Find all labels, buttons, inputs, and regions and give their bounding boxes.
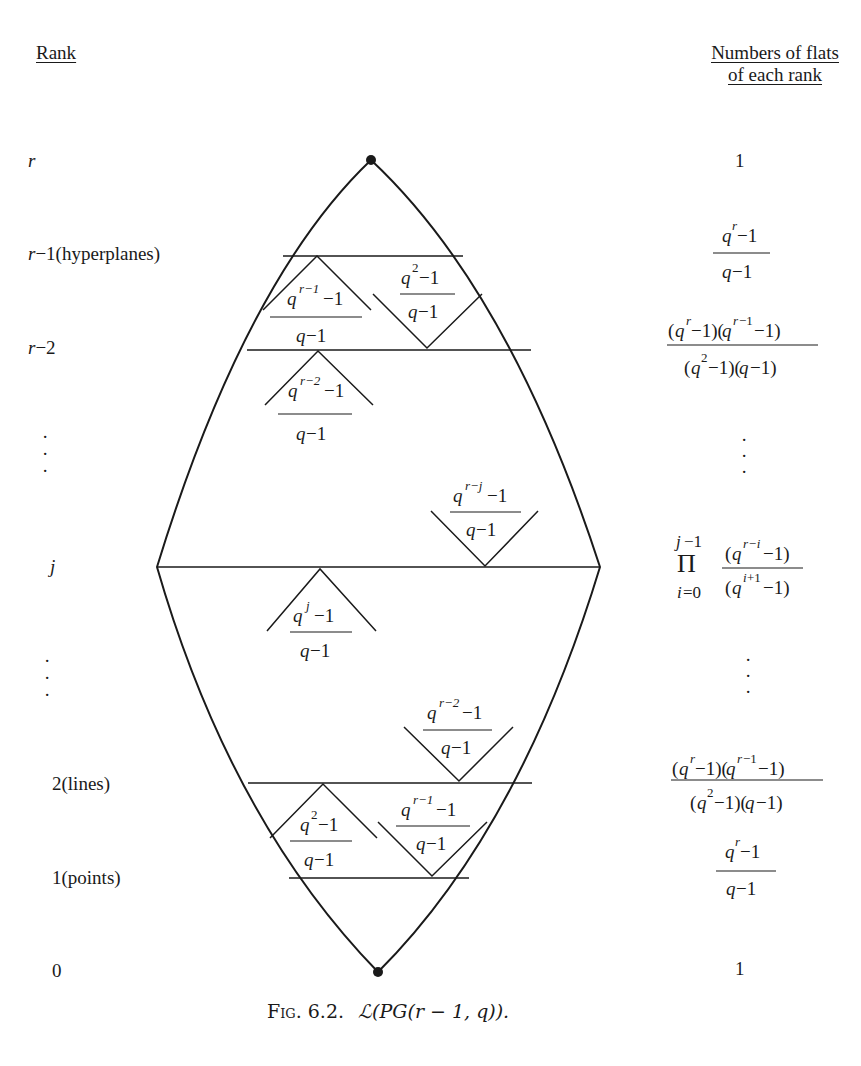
svg-text:Π: Π — [677, 549, 696, 578]
svg-text:−1: −1 — [310, 640, 330, 661]
svg-text:q: q — [466, 519, 476, 540]
count-rank-r: 1 — [735, 150, 745, 171]
svg-text:·: · — [745, 681, 751, 702]
svg-text:(: ( — [690, 792, 696, 814]
svg-text:q: q — [726, 878, 736, 899]
svg-text:−1): −1) — [763, 577, 790, 599]
caption-fig-label: Fig. 6.2. — [267, 1000, 344, 1022]
count-rank-zero: 1 — [735, 958, 745, 979]
svg-text:q: q — [697, 792, 707, 813]
svg-text:−1: −1 — [732, 261, 752, 282]
svg-text:−1)(: −1)( — [708, 357, 741, 379]
svg-text:(: ( — [725, 577, 731, 599]
svg-text:−1: −1 — [476, 519, 496, 540]
svg-text:(: ( — [672, 758, 678, 780]
count-rank-r-minus-2: (qr−1)(qr−1−1) (q2−1)(q−1) — [667, 313, 818, 379]
svg-text:q: q — [726, 758, 736, 779]
svg-text:−1): −1) — [754, 320, 781, 342]
svg-text:q: q — [722, 225, 732, 246]
svg-text:q: q — [691, 357, 701, 378]
svg-text:−1: −1 — [426, 833, 446, 854]
svg-text:−1): −1) — [756, 792, 783, 814]
svg-text:−1): −1) — [758, 758, 785, 780]
svg-text:q: q — [745, 792, 755, 813]
svg-text:−1: −1 — [318, 814, 338, 835]
svg-text:q: q — [427, 702, 437, 723]
svg-text:r−1: r−1 — [413, 792, 433, 807]
count-hyperplanes: qr−1 q−1 — [713, 218, 770, 282]
svg-text:−1: −1 — [462, 702, 482, 723]
svg-text:q: q — [300, 640, 310, 661]
svg-text:r−i: r−i — [743, 536, 761, 551]
svg-text:−1: −1 — [737, 225, 757, 246]
svg-text:q: q — [725, 841, 735, 862]
exp-up-r-1: r−1 — [299, 281, 319, 296]
svg-text:q: q — [732, 543, 742, 564]
svg-text:−1: −1 — [736, 878, 756, 899]
svg-text:q: q — [679, 758, 689, 779]
svg-text:(: ( — [668, 320, 674, 342]
svg-text:q: q — [722, 320, 732, 341]
svg-text:q: q — [739, 357, 749, 378]
svg-text:−1: −1 — [436, 799, 456, 820]
bottom-element-dot — [373, 967, 383, 977]
svg-text:−1: −1 — [419, 267, 439, 288]
count-lines: (qr−1)(qr−1−1) (q2−1)(q−1) — [671, 751, 823, 814]
svg-text:−1: −1 — [451, 737, 471, 758]
svg-text:−1: −1 — [739, 313, 753, 328]
svg-text:−1: −1 — [314, 849, 334, 870]
svg-text:−1): −1) — [750, 357, 777, 379]
svg-text:q: q — [304, 849, 314, 870]
lens-left-curve — [157, 160, 378, 972]
svg-text:−1: −1 — [743, 751, 757, 766]
svg-text:r−j: r−j — [465, 478, 483, 493]
svg-text:=0: =0 — [683, 583, 701, 602]
svg-text:(: ( — [725, 543, 731, 565]
svg-text:q: q — [675, 320, 685, 341]
svg-text:j: j — [304, 598, 310, 613]
svg-text:−1: −1 — [306, 325, 326, 346]
svg-text:q: q — [722, 261, 732, 282]
svg-text:−1: −1 — [487, 485, 507, 506]
svg-text:r−2: r−2 — [300, 373, 321, 388]
svg-text:q: q — [293, 605, 303, 626]
svg-text:q: q — [296, 423, 306, 444]
svg-text:−1: −1 — [323, 288, 343, 309]
svg-text:q: q — [401, 267, 411, 288]
svg-text:−1: −1 — [324, 380, 344, 401]
svg-text:−1)(: −1)( — [695, 758, 728, 780]
svg-text:q: q — [416, 833, 426, 854]
svg-text:−1): −1) — [763, 543, 790, 565]
svg-text:q: q — [453, 485, 463, 506]
svg-text:(: ( — [684, 357, 690, 379]
count-points: qr−1 q−1 — [716, 834, 776, 899]
lattice-diagram: qr−1−1 q−1 q2−1 q−1 qr−2−1 q−1 qr−j−1 q−… — [0, 0, 861, 1066]
svg-text:q: q — [296, 325, 306, 346]
svg-text:−1: −1 — [314, 605, 334, 626]
count-rank-j: j−1 Π i=0 (qr−i−1) (qi+1−1) — [674, 532, 803, 602]
svg-text:2: 2 — [412, 260, 419, 275]
svg-text:2: 2 — [707, 785, 714, 800]
svg-text:q: q — [287, 288, 297, 309]
svg-text:q: q — [300, 814, 310, 835]
svg-text:q: q — [401, 799, 411, 820]
svg-text:i: i — [677, 583, 682, 602]
caption-formula: ℒ(PG(r − 1, q)). — [358, 1000, 509, 1022]
svg-text:q: q — [408, 301, 418, 322]
svg-text:−1: −1 — [306, 423, 326, 444]
svg-text:q: q — [288, 380, 298, 401]
svg-text:−1: −1 — [740, 841, 760, 862]
svg-text:·: · — [741, 461, 747, 482]
figure-caption: Fig. 6.2. ℒ(PG(r − 1, q)). — [267, 1000, 509, 1022]
svg-text:−1: −1 — [418, 301, 438, 322]
svg-text:2: 2 — [701, 350, 708, 365]
svg-text:+1: +1 — [747, 570, 761, 585]
svg-text:−1)(: −1)( — [714, 792, 747, 814]
svg-text:−1)(: −1)( — [691, 320, 724, 342]
svg-text:r−2: r−2 — [439, 695, 460, 710]
top-element-dot — [366, 155, 376, 165]
svg-text:q: q — [441, 737, 451, 758]
svg-text:q: q — [732, 577, 742, 598]
svg-text:2: 2 — [311, 807, 318, 822]
